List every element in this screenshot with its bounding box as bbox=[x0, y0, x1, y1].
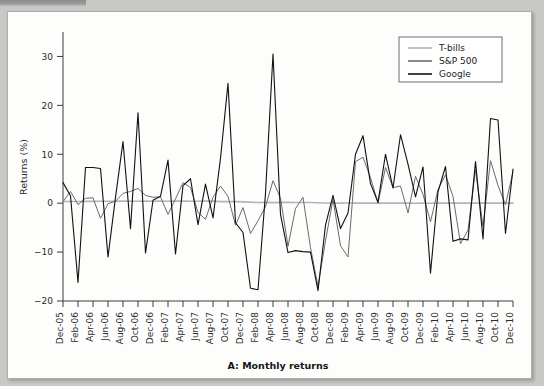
x-tick-label: Oct-09 bbox=[400, 312, 410, 343]
figure-page-panel: −20−100102030 Returns (%) Dec-05Feb-06Ap… bbox=[7, 11, 532, 379]
x-tick-label: Dec-08 bbox=[325, 312, 335, 344]
x-tick-label: Jun-06 bbox=[100, 312, 110, 342]
legend-label-t-bills: T-bills bbox=[438, 43, 465, 53]
x-tick-label: Apr-10 bbox=[445, 312, 455, 342]
legend: T-billsS&P 500Google bbox=[399, 37, 502, 82]
x-tick-label: Aug-09 bbox=[385, 312, 395, 345]
y-tick-label: 20 bbox=[42, 101, 54, 111]
y-tick-label: −10 bbox=[34, 247, 53, 257]
x-tick-label: Dec-05 bbox=[55, 312, 65, 344]
x-tick-label: Dec-09 bbox=[415, 312, 425, 344]
y-tick-label: 0 bbox=[47, 198, 53, 208]
x-tick-label: Jun-07 bbox=[190, 312, 200, 342]
x-tick-label: Aug-06 bbox=[115, 312, 125, 345]
scan-edge-artifact bbox=[0, 0, 86, 7]
y-tick-label: 10 bbox=[42, 150, 54, 160]
x-tick-label: Feb-06 bbox=[70, 312, 80, 343]
x-tick-label: Jun-10 bbox=[460, 312, 470, 342]
chart-caption: A: Monthly returns bbox=[228, 360, 329, 371]
x-tick-label: Jun-09 bbox=[370, 312, 380, 342]
monthly-returns-chart: −20−100102030 Returns (%) Dec-05Feb-06Ap… bbox=[8, 12, 531, 378]
x-tick-label: Apr-06 bbox=[85, 312, 95, 342]
x-tick-label: Apr-09 bbox=[355, 312, 365, 342]
x-axis-tick-labels: Dec-05Feb-06Apr-06Jun-06Aug-06Oct-06Dec-… bbox=[55, 312, 515, 345]
x-tick-label: Jun-08 bbox=[280, 312, 290, 342]
x-tick-label: Apr-08 bbox=[265, 312, 275, 342]
x-tick-label: Aug-10 bbox=[475, 312, 485, 345]
legend-label-google: Google bbox=[439, 69, 471, 79]
x-tick-label: Dec-07 bbox=[235, 312, 245, 344]
x-tick-label: Apr-07 bbox=[175, 312, 185, 342]
x-tick-label: Feb-07 bbox=[160, 312, 170, 343]
x-tick-label: Oct-06 bbox=[130, 312, 140, 343]
y-axis-title: Returns (%) bbox=[18, 139, 29, 195]
y-tick-label: 30 bbox=[42, 52, 54, 62]
x-tick-label: Aug-07 bbox=[205, 312, 215, 344]
x-tick-label: Oct-08 bbox=[310, 312, 320, 343]
x-tick-label: Dec-06 bbox=[145, 312, 155, 344]
legend-label-s-p-500: S&P 500 bbox=[439, 56, 477, 66]
x-tick-label: Feb-10 bbox=[430, 312, 440, 343]
chart-canvas: −20−100102030 Returns (%) Dec-05Feb-06Ap… bbox=[8, 12, 531, 378]
y-tick-label: −20 bbox=[34, 296, 53, 306]
x-tick-label: Feb-08 bbox=[250, 312, 260, 343]
x-tick-label: Oct-07 bbox=[220, 312, 230, 342]
x-tick-label: Dec-10 bbox=[505, 312, 515, 344]
x-tick-label: Oct-10 bbox=[490, 312, 500, 343]
x-tick-label: Aug-08 bbox=[295, 312, 305, 345]
x-tick-label: Feb-09 bbox=[340, 312, 350, 343]
